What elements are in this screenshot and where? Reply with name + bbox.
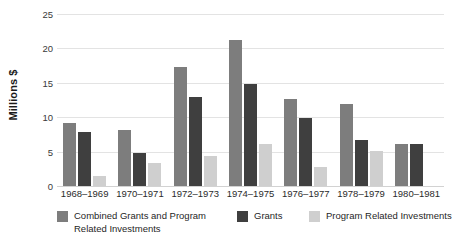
bar-series-1-1 (133, 153, 146, 186)
bar-series-0-6 (395, 144, 408, 186)
legend-label-grants: Grants (254, 210, 283, 223)
legend-label-combined: Combined Grants and Program Related Inve… (74, 210, 206, 235)
bar-group (168, 14, 223, 186)
legend-item-program-related-investments: Program Related Investments (309, 210, 452, 223)
y-axis-title: Millions $ (0, 0, 26, 190)
x-tick-label-6: 1980–1981 (389, 188, 444, 202)
plot-area: 0510152025 (57, 14, 444, 186)
bar-series-1-5 (355, 140, 368, 186)
bar-series-1-3 (244, 84, 257, 187)
legend-item-combined-grants-and-pri: Combined Grants and Program Related Inve… (57, 210, 237, 235)
bar-series-2-0 (93, 176, 106, 186)
bar-series-0-2 (174, 67, 187, 186)
legend-swatch-combined (57, 211, 68, 222)
y-tick-label-10: 10 (25, 112, 53, 123)
legend-item-grants: Grants (237, 210, 309, 223)
legend-swatch-pri (309, 211, 320, 222)
bar-series-1-2 (189, 97, 202, 186)
x-tick-label-5: 1978–1979 (333, 188, 388, 202)
y-tick-label-5: 5 (25, 146, 53, 157)
x-tick-label-0: 1968–1969 (57, 188, 112, 202)
legend-swatch-grants (237, 211, 248, 222)
x-tick-label-1: 1970–1971 (112, 188, 167, 202)
x-tick-label-2: 1972–1973 (168, 188, 223, 202)
y-tick-label-20: 20 (25, 43, 53, 54)
gridline-0 (57, 186, 444, 187)
bar-group (389, 14, 444, 186)
bar-series-2-1 (148, 163, 161, 186)
bar-group (57, 14, 112, 186)
y-axis-title-label: Millions $ (7, 69, 19, 120)
x-tick-label-4: 1976–1977 (278, 188, 333, 202)
legend-label-combined-line1: Combined Grants and Program (74, 210, 206, 221)
bar-series-1-4 (299, 118, 312, 186)
bar-series-0-4 (284, 99, 297, 186)
bar-series-2-4 (314, 167, 327, 186)
bar-chart: Millions $ 0510152025 1968–19691970–1971… (0, 0, 456, 248)
bar-series-1-0 (78, 132, 91, 186)
bar-series-1-6 (410, 144, 423, 186)
bar-series-2-3 (259, 144, 272, 186)
legend-label-combined-line2: Related Investments (74, 223, 161, 234)
x-tick-label-3: 1974–1975 (223, 188, 278, 202)
y-tick-label-15: 15 (25, 77, 53, 88)
bar-group (333, 14, 388, 186)
bar-series-0-5 (340, 104, 353, 186)
legend-label-pri: Program Related Investments (326, 210, 452, 223)
x-axis-labels: 1968–19691970–19711972–19731974–19751976… (57, 188, 444, 202)
bar-series-2-2 (204, 156, 217, 186)
bar-group (278, 14, 333, 186)
bar-series-0-1 (118, 130, 131, 186)
y-tick-label-25: 25 (25, 9, 53, 20)
bar-series-2-5 (370, 151, 383, 186)
bar-series-0-3 (229, 40, 242, 186)
bars-layer (57, 14, 444, 186)
bar-group (223, 14, 278, 186)
bar-group (112, 14, 167, 186)
chart-legend: Combined Grants and Program Related Inve… (57, 210, 456, 235)
bar-series-0-0 (63, 123, 76, 186)
y-tick-label-0: 0 (25, 181, 53, 192)
